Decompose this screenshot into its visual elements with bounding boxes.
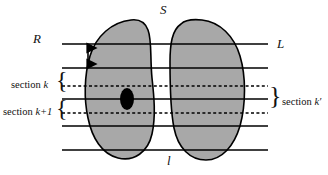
brace-section-k-plus-1: { bbox=[56, 96, 68, 120]
section-k1-text: section k+1 bbox=[3, 106, 52, 117]
nodule-marker bbox=[120, 88, 134, 110]
lung-lobes bbox=[85, 20, 244, 160]
brace-section-k-prime: } bbox=[269, 83, 281, 109]
label-inferior-l: l bbox=[167, 153, 171, 169]
label-left-L: L bbox=[277, 36, 284, 52]
label-section-k-prime: section k′ bbox=[282, 96, 321, 107]
section-k-prime-text: section k′ bbox=[282, 96, 321, 107]
left-lobe-shape bbox=[170, 20, 245, 160]
lung-section-diagram: S R L l section k section k+1 { { } sect… bbox=[0, 0, 328, 175]
label-superior-S: S bbox=[160, 2, 167, 18]
section-k-text: section k bbox=[11, 79, 48, 90]
label-section-k-plus-1: section k+1 bbox=[3, 106, 52, 117]
right-lobe-shape bbox=[85, 20, 154, 159]
label-right-R: R bbox=[33, 31, 41, 47]
brace-section-k: { bbox=[56, 68, 68, 92]
label-section-k: section k bbox=[11, 79, 48, 90]
